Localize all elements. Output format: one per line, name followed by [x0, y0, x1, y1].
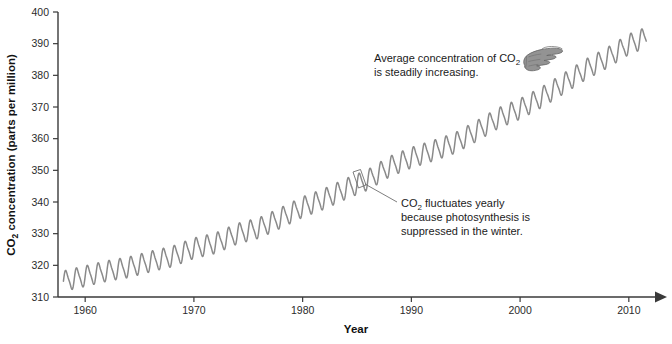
y-tick-label: 330 [31, 227, 49, 239]
y-tick-label: 320 [31, 259, 49, 271]
x-tick-label: 1990 [400, 304, 424, 316]
annotation-average-trend-line2: is steadily increasing. [374, 66, 479, 78]
annotation-seasonal-fluctuation: CO2 fluctuates yearly because photosynth… [353, 170, 531, 238]
x-axis-arrowhead [655, 292, 667, 303]
annotation-average-trend-line1: Average concentration of CO2 [374, 52, 521, 67]
annotation-seasonal-line1: CO2 fluctuates yearly [401, 197, 505, 212]
annotation-leader-line [365, 184, 397, 202]
x-axis-ticks [85, 297, 629, 302]
pointing-hand-icon [524, 46, 563, 70]
co2-data-curve [63, 29, 646, 289]
annotation-seasonal-line2: because photosynthesis is [401, 211, 531, 223]
x-tick-label: 1980 [291, 304, 315, 316]
x-tick-label: 2000 [508, 304, 532, 316]
y-tick-label: 310 [31, 291, 49, 303]
y-tick-label: 340 [31, 196, 49, 208]
y-tick-label: 390 [31, 37, 49, 49]
x-tick-label: 2010 [617, 304, 641, 316]
annotation-average-trend: Average concentration of CO2 is steadily… [374, 46, 563, 78]
y-tick-label: 350 [31, 164, 49, 176]
annotation-seasonal-line3: suppressed in the winter. [401, 225, 523, 237]
y-tick-label: 380 [31, 69, 49, 81]
y-axis: 310320330340350360370380390400 [31, 6, 58, 303]
chart-canvas: 310320330340350360370380390400 196019701… [0, 0, 672, 344]
x-tick-label: 1970 [182, 304, 206, 316]
co2-concentration-chart: 310320330340350360370380390400 196019701… [0, 0, 672, 344]
y-tick-label: 370 [31, 101, 49, 113]
x-tick-label: 1960 [74, 304, 98, 316]
y-axis-title: CO2 concentration (parts per million) [5, 54, 20, 256]
y-tick-label: 360 [31, 132, 49, 144]
x-axis-title: Year [344, 323, 369, 335]
y-axis-ticks [53, 12, 58, 297]
x-axis-tick-labels: 196019701980199020002010 [74, 304, 641, 316]
y-axis-tick-labels: 310320330340350360370380390400 [31, 6, 49, 303]
y-tick-label: 400 [31, 6, 49, 18]
x-axis: 196019701980199020002010 [58, 292, 667, 317]
